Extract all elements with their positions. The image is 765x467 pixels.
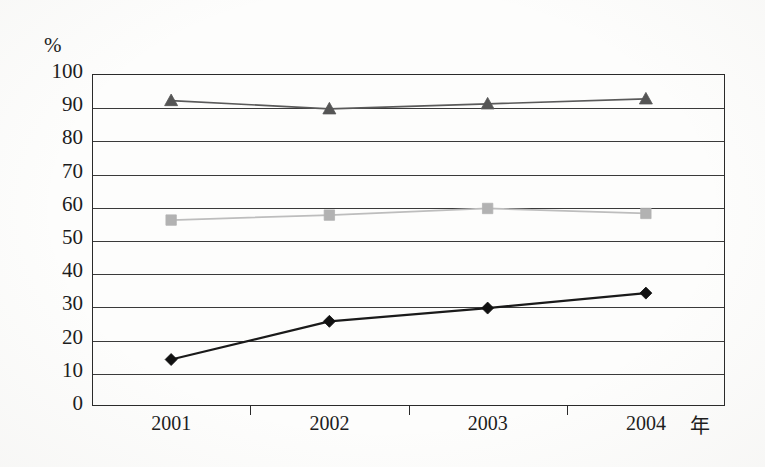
data-point-diamond-2002 <box>323 315 335 327</box>
y-tick-label-30: 30 <box>23 291 83 316</box>
series-square <box>166 203 651 225</box>
y-tick-label-20: 20 <box>23 324 83 349</box>
y-tick-label-0: 0 <box>23 391 83 416</box>
x-tick-label-2004: 2004 <box>591 412 701 435</box>
x-tick-label-2001: 2001 <box>116 412 226 435</box>
data-point-square-2003 <box>482 203 492 213</box>
y-tick-label-70: 70 <box>23 158 83 183</box>
data-point-triangle-2001 <box>165 94 178 106</box>
y-tick-label-60: 60 <box>23 192 83 217</box>
series-line-diamond <box>171 293 646 359</box>
x-tick-mark-3 <box>567 406 568 415</box>
series-line-triangle <box>171 99 646 109</box>
data-point-square-2001 <box>166 215 176 225</box>
data-point-triangle-2004 <box>639 92 652 104</box>
data-point-diamond-2001 <box>165 354 177 366</box>
y-tick-label-50: 50 <box>23 225 83 250</box>
x-tick-label-2002: 2002 <box>274 412 384 435</box>
series-diamond <box>165 287 652 365</box>
data-point-square-2002 <box>324 210 334 220</box>
series-triangle <box>165 92 653 114</box>
y-tick-label-40: 40 <box>23 258 83 283</box>
chart-figure: % 1009080706050403020100 200120022003200… <box>0 0 765 467</box>
y-axis-unit-label: % <box>44 33 62 58</box>
data-point-square-2004 <box>641 208 651 218</box>
series-layer <box>92 74 725 406</box>
x-tick-mark-1 <box>250 406 251 415</box>
data-point-diamond-2004 <box>640 287 652 299</box>
y-tick-label-10: 10 <box>23 358 83 383</box>
x-tick-label-2003: 2003 <box>433 412 543 435</box>
y-tick-label-90: 90 <box>23 92 83 117</box>
data-point-diamond-2003 <box>482 302 494 314</box>
y-tick-label-80: 80 <box>23 125 83 150</box>
series-line-square <box>171 208 646 220</box>
x-tick-mark-2 <box>409 406 410 415</box>
y-tick-label-100: 100 <box>23 59 83 84</box>
x-axis-name-label: 年 <box>690 410 710 439</box>
